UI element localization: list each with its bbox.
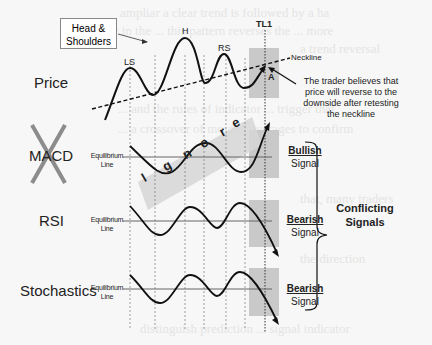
stochastics-signal-label: Bearish Signal	[282, 282, 328, 308]
pattern-label-box: Head & Shoulders	[60, 18, 117, 49]
stoch-highlight-box	[249, 268, 279, 316]
panel-label-price: Price	[34, 74, 68, 91]
stochastics-equilibrium-label: Equilibrium Line	[88, 283, 126, 301]
neckline-label: Neckline	[291, 53, 322, 62]
left-shoulder-label: LS	[124, 57, 135, 67]
ignore-band	[138, 117, 262, 210]
pattern-label: Head & Shoulders	[66, 23, 111, 47]
price-curve	[105, 38, 264, 120]
macd-signal-label: Bullish Signal	[282, 144, 328, 170]
trader-annotation: The trader believes that price will reve…	[296, 76, 406, 120]
panel-label-stochastics: Stochastics	[20, 282, 97, 299]
tl1-label: TL1	[256, 19, 272, 29]
panel-label-macd: MACD	[29, 147, 73, 164]
right-shoulder-label: RS	[218, 43, 231, 53]
conflicting-signals-label: Conflicting Signals	[330, 201, 400, 229]
panel-label-rsi: RSI	[39, 212, 64, 229]
macd-equilibrium-label: Equilibrium Line	[88, 151, 126, 169]
area-a-label: A	[268, 72, 275, 82]
head-label: H	[182, 26, 189, 36]
rsi-signal-label: Bearish Signal	[282, 213, 328, 239]
rsi-equilibrium-label: Equilibrium Line	[88, 215, 126, 233]
rsi-highlight-box	[249, 200, 279, 247]
